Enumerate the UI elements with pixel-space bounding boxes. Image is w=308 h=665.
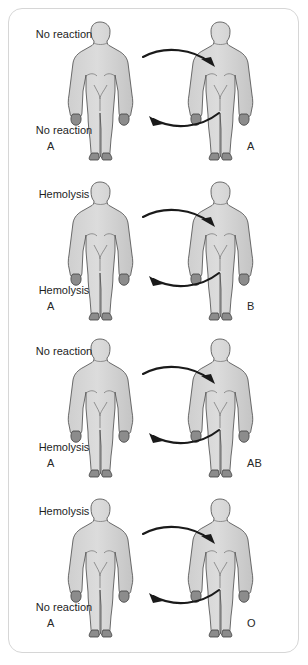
forward-arrow-shaft — [143, 210, 211, 223]
reaction-arrows — [127, 179, 237, 321]
forward-arrow-shaft — [143, 527, 211, 540]
donor-type-label: A — [47, 458, 55, 469]
forward-reaction-label: Hemolysis — [9, 189, 119, 200]
compatibility-row: A — [9, 492, 298, 647]
reverse-reaction-label: Hemolysis — [9, 285, 119, 296]
recipient-type-label: O — [247, 618, 256, 629]
recipient-type-label: A — [247, 141, 255, 152]
reverse-arrow-head — [149, 433, 163, 443]
reverse-arrow-shaft — [153, 113, 219, 126]
donor-type-label: A — [47, 141, 55, 152]
compatibility-row: A — [9, 15, 298, 170]
recipient-type-label: AB — [247, 458, 262, 469]
reaction-arrows — [127, 496, 237, 638]
reaction-arrows — [127, 19, 237, 161]
reverse-arrow-head — [149, 116, 163, 126]
forward-reaction-label: No reaction — [9, 29, 119, 40]
compatibility-row: A — [9, 175, 298, 330]
donor-type-label: A — [47, 618, 55, 629]
reaction-arrows — [127, 336, 237, 478]
reverse-reaction-label: Hemolysis — [9, 442, 119, 453]
blood-compatibility-figure-panel: A — [8, 8, 299, 653]
reverse-arrow-shaft — [153, 430, 219, 443]
forward-reaction-label: Hemolysis — [9, 506, 119, 517]
reverse-reaction-label: No reaction — [9, 602, 119, 613]
reverse-arrow-head — [149, 593, 163, 603]
reverse-arrow-head — [149, 276, 163, 286]
reverse-reaction-label: No reaction — [9, 125, 119, 136]
recipient-type-label: B — [247, 301, 255, 312]
forward-arrow-shaft — [143, 367, 211, 380]
forward-reaction-label: No reaction — [9, 346, 119, 357]
compatibility-row: A — [9, 332, 298, 487]
forward-arrow-shaft — [143, 50, 211, 63]
donor-type-label: A — [47, 301, 55, 312]
reverse-arrow-shaft — [153, 273, 219, 286]
reverse-arrow-shaft — [153, 590, 219, 603]
